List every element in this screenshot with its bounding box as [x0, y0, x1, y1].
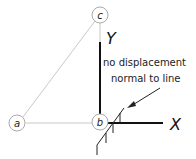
node-c-label: c	[97, 10, 103, 21]
node-c: c	[92, 7, 108, 23]
y-axis-label: Y	[106, 29, 117, 48]
node-b-label: b	[97, 117, 103, 128]
x-axis-label: X	[169, 115, 182, 134]
node-a-label: a	[14, 118, 20, 129]
annotation-line2: normal to line	[111, 73, 180, 84]
node-a: a	[9, 115, 25, 131]
truss-diagram: a b c Y X no displacement normal to line	[0, 0, 196, 159]
member-a-c	[23, 21, 95, 117]
annotation-arrow-icon	[127, 88, 160, 108]
node-b: b	[92, 114, 108, 130]
annotation-line1: no displacement	[103, 57, 186, 68]
